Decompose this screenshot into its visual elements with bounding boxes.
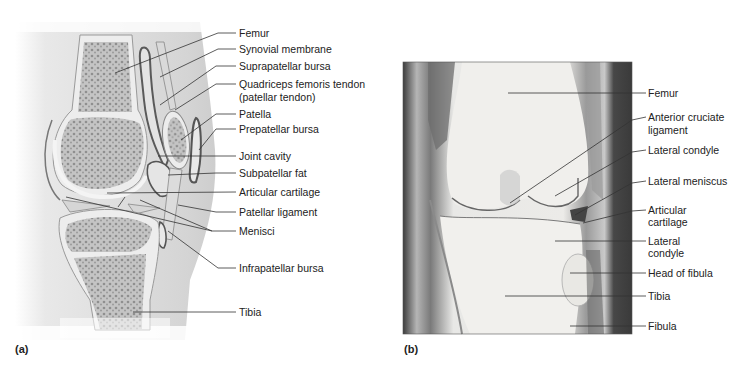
label-b-head-of-fibula: Head of fibula (648, 267, 713, 280)
label-a-prepatellar-bursa: Prepatellar bursa (239, 123, 319, 136)
label-a-subpatellar-fat: Subpatellar fat (239, 167, 307, 180)
label-a-infrapatellar-bursa: Infrapatellar bursa (239, 262, 324, 275)
panel-b-tag: (b) (404, 343, 418, 355)
figure-artwork (0, 0, 738, 370)
label-b-tibia: Tibia (648, 290, 670, 303)
label-b-lateral-meniscus: Lateral meniscus (648, 175, 727, 188)
label-a-quadriceps-tendon: Quadriceps femoris tendon (239, 78, 365, 91)
panel-a-tag: (a) (15, 343, 28, 355)
label-a-articular-cartilage: Articular cartilage (239, 186, 320, 199)
label-b-anterior-cruciate-ligament: Anterior cruciate (648, 111, 724, 124)
label-a-menisci: Menisci (239, 225, 275, 238)
label-a-joint-cavity: Joint cavity (239, 150, 291, 163)
label-b-lateral-condyle: Lateral condyle (648, 144, 719, 157)
knee-joint-figure: Femur Synovial membrane Suprapatellar bu… (0, 0, 738, 370)
label-b-lateral-condyle-tibia: Lateral (648, 235, 680, 248)
label-b-lateral-condyle-tibia-line2: condyle (648, 247, 684, 260)
label-a-suprapatellar-bursa: Suprapatellar bursa (239, 60, 331, 73)
label-a-quadriceps-tendon-line2: (patellar tendon) (239, 91, 315, 104)
panel-b-photograph (403, 62, 646, 334)
label-b-articular-cartilage: Articular (648, 204, 687, 217)
label-a-patellar-ligament: Patellar ligament (239, 206, 317, 219)
label-b-articular-cartilage-line2: cartilage (648, 216, 688, 229)
label-a-femur: Femur (239, 27, 269, 40)
label-a-synovial-membrane: Synovial membrane (239, 43, 332, 56)
label-a-tibia: Tibia (239, 306, 261, 319)
label-b-femur: Femur (648, 87, 678, 100)
label-b-fibula: Fibula (648, 320, 677, 333)
label-b-anterior-cruciate-ligament-line2: ligament (648, 124, 688, 137)
panel-a-illustration (10, 18, 236, 344)
label-a-patella: Patella (239, 108, 271, 121)
